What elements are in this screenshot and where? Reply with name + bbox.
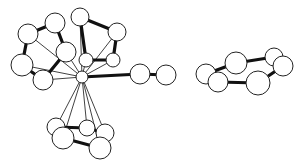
- atom-e: [56, 42, 76, 62]
- atom-s: [208, 72, 228, 92]
- atom-a: [18, 24, 38, 44]
- atom-f: [11, 54, 33, 76]
- metal-center: [76, 71, 88, 83]
- atom-d: [108, 23, 126, 41]
- atom-j: [130, 64, 150, 84]
- atom-q: [273, 56, 293, 76]
- atoms: [11, 8, 293, 159]
- atom-n: [225, 52, 247, 74]
- atom-v: [79, 120, 95, 136]
- atom-r: [246, 71, 270, 95]
- atom-u: [52, 127, 74, 149]
- atom-i: [106, 53, 120, 67]
- atom-c: [71, 8, 89, 26]
- atom-h: [79, 53, 93, 67]
- atom-g: [33, 70, 53, 90]
- atom-k: [156, 65, 176, 85]
- metal-atom: [76, 71, 88, 83]
- atom-x: [89, 137, 111, 159]
- atom-b: [45, 13, 65, 33]
- molecule-diagram: [0, 0, 304, 166]
